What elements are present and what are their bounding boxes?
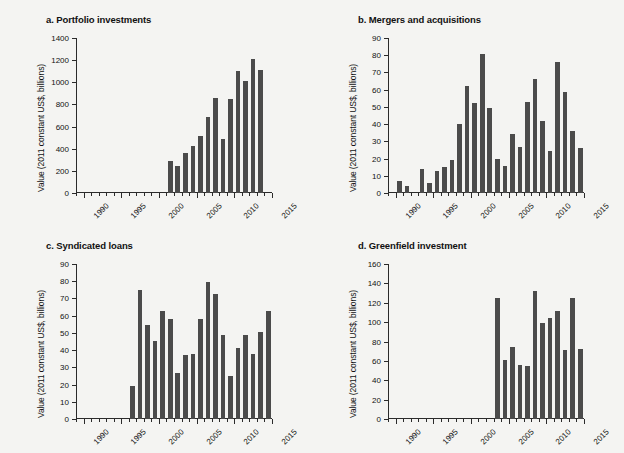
x-tick-minor — [531, 193, 532, 196]
x-tick-minor — [516, 193, 517, 196]
bar — [236, 348, 241, 419]
bar — [533, 291, 538, 419]
x-tick-label: 2010 — [554, 427, 573, 446]
y-tick — [72, 402, 76, 403]
x-tick-minor — [136, 419, 137, 422]
x-tick-major — [159, 193, 160, 198]
x-tick-minor — [99, 193, 100, 196]
bar — [548, 318, 553, 419]
x-tick-label: 2005 — [516, 427, 535, 446]
panel-a-title: a. Portfolio investments — [46, 14, 151, 25]
x-tick-minor — [524, 193, 525, 196]
y-tick-label: 10 — [60, 397, 69, 406]
x-tick-major — [396, 419, 397, 424]
panel-c-title: c. Syndicated loans — [46, 240, 133, 251]
x-tick-label: 2015 — [280, 427, 299, 446]
y-tick-label: 120 — [368, 298, 381, 307]
x-tick-major — [471, 419, 472, 424]
y-tick — [384, 107, 388, 108]
x-tick-minor — [204, 193, 205, 196]
y-tick-label: 0 — [377, 415, 381, 424]
x-tick-minor — [91, 193, 92, 196]
panel-c-plot-area: 0102030405060708090199019952000200520102… — [76, 264, 272, 419]
x-tick-minor — [463, 193, 464, 196]
bar — [480, 54, 485, 194]
y-tick — [384, 342, 388, 343]
x-tick-minor — [151, 419, 152, 422]
x-tick-major — [234, 193, 235, 198]
panel-c-y-axis — [76, 264, 77, 419]
bar — [243, 335, 248, 419]
y-tick — [384, 38, 388, 39]
y-tick-label: 1400 — [51, 34, 69, 43]
bar — [487, 108, 492, 193]
y-tick — [384, 159, 388, 160]
x-tick-label: 1995 — [129, 427, 148, 446]
y-tick-label: 30 — [60, 363, 69, 372]
bar — [578, 148, 583, 193]
y-tick-label: 140 — [368, 279, 381, 288]
x-tick-minor — [411, 419, 412, 422]
x-tick-minor — [554, 193, 555, 196]
y-tick — [72, 171, 76, 172]
y-tick — [384, 72, 388, 73]
x-tick-minor — [478, 419, 479, 422]
x-tick-minor — [249, 193, 250, 196]
x-tick-minor — [114, 193, 115, 196]
x-tick-major — [584, 193, 585, 198]
x-tick-minor — [204, 419, 205, 422]
bar — [570, 131, 575, 193]
x-tick-minor — [516, 419, 517, 422]
y-tick-label: 90 — [60, 260, 69, 269]
bar — [518, 147, 523, 194]
x-tick-minor — [576, 193, 577, 196]
x-tick-minor — [182, 419, 183, 422]
panel-b-title: b. Mergers and acquisitions — [358, 14, 481, 25]
panel-a-portfolio-investments: a. Portfolio investments Value (2011 con… — [0, 0, 312, 226]
panel-c-ylabel: Value (2011 constant US$, billions) — [36, 290, 46, 418]
y-tick — [384, 400, 388, 401]
panel-c-syndicated-loans: c. Syndicated loans Value (2011 constant… — [0, 226, 312, 453]
x-tick-minor — [554, 419, 555, 422]
panel-b-mergers-acquisitions: b. Mergers and acquisitions Value (2011 … — [312, 0, 624, 226]
x-tick-minor — [561, 193, 562, 196]
y-tick-label: 30 — [372, 137, 381, 146]
bar — [153, 341, 158, 419]
bar — [258, 332, 263, 419]
x-tick-minor — [114, 419, 115, 422]
bar — [533, 79, 538, 193]
y-tick — [72, 350, 76, 351]
y-tick-label: 400 — [56, 144, 69, 153]
y-tick-label: 0 — [65, 415, 69, 424]
x-tick-minor — [388, 419, 389, 422]
y-tick — [384, 303, 388, 304]
bar — [266, 311, 271, 420]
y-tick-label: 600 — [56, 122, 69, 131]
x-tick-minor — [494, 419, 495, 422]
x-tick-minor — [174, 193, 175, 196]
bar — [228, 376, 233, 419]
panel-d-title: d. Greenfield investment — [358, 240, 466, 251]
x-tick-label: 2000 — [167, 427, 186, 446]
bar — [540, 323, 545, 419]
x-tick-minor — [76, 419, 77, 422]
x-tick-minor — [219, 419, 220, 422]
x-tick-minor — [388, 193, 389, 196]
bar — [168, 319, 173, 419]
x-tick-label: 2015 — [592, 427, 611, 446]
y-tick — [72, 104, 76, 105]
panel-d-greenfield-investment: d. Greenfield investment Value (2011 con… — [312, 226, 624, 453]
x-tick-minor — [411, 193, 412, 196]
bar — [130, 386, 135, 419]
x-tick-major — [84, 419, 85, 424]
bar — [503, 166, 508, 193]
x-tick-label: 1990 — [403, 427, 422, 446]
bar — [442, 167, 447, 193]
x-tick-label: 2015 — [592, 201, 611, 220]
panel-b-ylabel: Value (2011 constant US$, billions) — [348, 64, 358, 192]
bar — [503, 360, 508, 419]
bar — [168, 161, 173, 193]
x-tick-minor — [478, 193, 479, 196]
y-tick-label: 200 — [56, 166, 69, 175]
x-tick-minor — [227, 193, 228, 196]
